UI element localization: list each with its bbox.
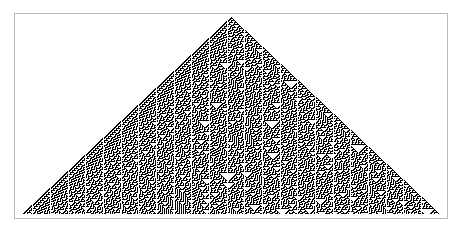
figure-root xyxy=(0,0,462,240)
automaton-frame xyxy=(14,13,448,219)
cellular-automaton-canvas xyxy=(15,14,447,218)
